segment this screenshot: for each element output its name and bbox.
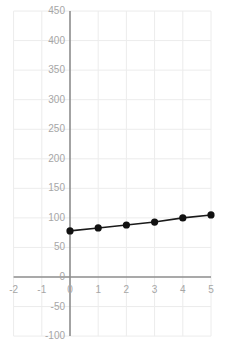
- y-tick-label: 350: [48, 65, 65, 75]
- y-tick-label: 150: [48, 183, 65, 193]
- y-tick-label: 300: [48, 95, 65, 105]
- x-tick-label: 2: [111, 285, 141, 295]
- x-tick-label: 0: [55, 285, 85, 295]
- y-tick-label: 0: [59, 272, 65, 282]
- x-tick-label: -2: [0, 285, 29, 295]
- x-tick-label: 5: [196, 285, 225, 295]
- y-tick-label: 400: [48, 36, 65, 46]
- x-tick-label: 3: [140, 285, 170, 295]
- y-tick-label: 200: [48, 154, 65, 164]
- series-line: [70, 215, 211, 231]
- y-tick-label: 250: [48, 124, 65, 134]
- y-tick-label: 100: [48, 213, 65, 223]
- y-tick-label: 450: [48, 6, 65, 16]
- x-tick-label: 1: [83, 285, 113, 295]
- y-tick-label: -50: [51, 302, 65, 312]
- line-chart: -100-50050100150200250300350400450 -2-10…: [0, 0, 225, 340]
- x-tick-label: 4: [168, 285, 198, 295]
- y-tick-label: -100: [45, 331, 65, 340]
- x-tick-label: -1: [27, 285, 57, 295]
- y-tick-label: 50: [54, 242, 65, 252]
